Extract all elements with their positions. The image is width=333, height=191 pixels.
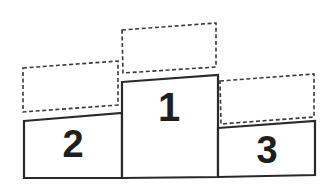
rank-label-second: 2 <box>62 123 83 165</box>
placeholder-box-first <box>122 23 216 73</box>
podium-canvas: 2 1 3 <box>0 0 333 191</box>
placeholder-box-third <box>220 74 314 124</box>
placeholder-box-second <box>23 61 118 112</box>
podium-diagram: 2 1 3 <box>0 0 333 191</box>
rank-label-third: 3 <box>256 129 277 171</box>
rank-label-first: 1 <box>158 85 180 129</box>
